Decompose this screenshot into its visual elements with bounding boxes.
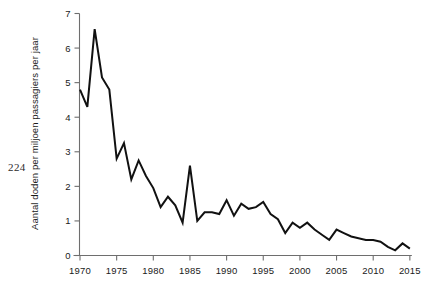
x-tick-label: 2005 xyxy=(326,265,348,276)
figure-container: 224 Aantal doden per miljoen passagiers … xyxy=(0,0,446,291)
y-tick-label: 3 xyxy=(65,146,70,157)
y-tick-label: 4 xyxy=(65,112,70,123)
y-tick-label: 7 xyxy=(65,8,70,19)
x-tick-label: 1995 xyxy=(252,265,274,276)
x-tick-mark-group xyxy=(80,256,410,261)
y-tick-label: 6 xyxy=(65,43,70,54)
y-tick-label-group: 01234567 xyxy=(65,8,70,261)
data-series-line xyxy=(80,29,410,250)
x-tick-label: 2015 xyxy=(399,265,421,276)
x-tick-label: 1975 xyxy=(106,265,128,276)
y-tick-label: 5 xyxy=(65,77,70,88)
line-chart: 01234567 1970197519801985199019952000200… xyxy=(0,0,446,291)
x-tick-label: 2010 xyxy=(362,265,384,276)
x-tick-label: 1980 xyxy=(142,265,164,276)
x-tick-label: 1990 xyxy=(216,265,238,276)
x-tick-label: 1985 xyxy=(179,265,201,276)
x-tick-label-group: 1970197519801985199019952000200520102015 xyxy=(69,265,421,276)
y-tick-label: 1 xyxy=(65,215,70,226)
y-tick-label: 0 xyxy=(65,250,70,261)
y-tick-label: 2 xyxy=(65,181,70,192)
x-tick-label: 2000 xyxy=(289,265,311,276)
x-tick-label: 1970 xyxy=(69,265,91,276)
y-tick-mark-group xyxy=(75,14,80,256)
